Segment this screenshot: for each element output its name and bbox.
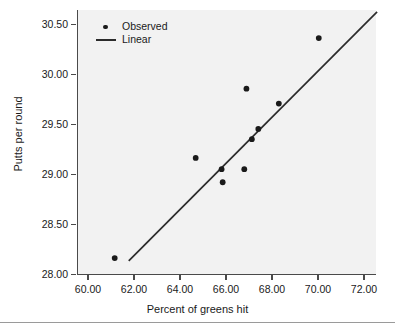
legend-item-linear: Linear bbox=[95, 33, 168, 46]
y-tick-label: 30.00 bbox=[18, 69, 68, 80]
x-tick-mark bbox=[87, 275, 89, 280]
data-point bbox=[220, 179, 226, 185]
x-axis-title: Percent of greens hit bbox=[0, 303, 395, 315]
plot-canvas bbox=[78, 10, 376, 274]
data-point bbox=[241, 166, 247, 172]
y-tick-label: 28.50 bbox=[18, 219, 68, 230]
legend-item-observed: Observed bbox=[95, 20, 168, 33]
chart-legend: Observed Linear bbox=[95, 20, 168, 46]
footer-divider bbox=[0, 322, 395, 323]
y-tick-label: 29.00 bbox=[18, 169, 68, 180]
y-tick-mark bbox=[71, 24, 76, 26]
x-tick-mark bbox=[271, 275, 273, 280]
y-tick-mark bbox=[71, 174, 76, 176]
plot-area bbox=[77, 10, 376, 275]
data-point bbox=[193, 155, 199, 161]
x-tick-label: 72.00 bbox=[334, 284, 394, 295]
x-tick-mark bbox=[317, 275, 319, 280]
y-tick-mark bbox=[71, 274, 76, 276]
y-tick-mark bbox=[71, 124, 76, 126]
x-tick-mark bbox=[179, 275, 181, 280]
legend-label-linear: Linear bbox=[122, 33, 151, 46]
data-point bbox=[244, 86, 250, 92]
data-point bbox=[255, 126, 261, 132]
x-tick-mark bbox=[225, 275, 227, 280]
y-tick-label: 29.50 bbox=[18, 119, 68, 130]
data-point bbox=[112, 255, 118, 261]
y-tick-mark bbox=[71, 224, 76, 226]
y-tick-label: 28.00 bbox=[18, 269, 68, 280]
y-axis-title: Putts per round bbox=[12, 54, 24, 214]
data-point bbox=[316, 35, 322, 41]
scatter-plot-figure: 30.50 30.00 29.50 29.00 28.50 28.00 60.0… bbox=[0, 0, 395, 329]
legend-label-observed: Observed bbox=[122, 20, 168, 33]
x-tick-mark bbox=[363, 275, 365, 280]
data-point bbox=[219, 166, 225, 172]
y-tick-label: 30.50 bbox=[18, 19, 68, 30]
legend-line-icon bbox=[95, 33, 117, 46]
legend-dot-icon bbox=[95, 20, 117, 33]
data-point bbox=[276, 101, 282, 107]
data-point bbox=[249, 136, 255, 142]
x-tick-mark bbox=[133, 275, 135, 280]
regression-line bbox=[129, 12, 377, 261]
y-tick-mark bbox=[71, 74, 76, 76]
data-point-group bbox=[112, 35, 322, 261]
